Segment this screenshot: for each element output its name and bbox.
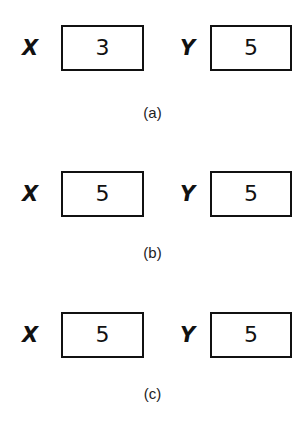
x-value-box: 5 [61,312,144,358]
variable-row: X 3 Y 5 [0,25,305,75]
panel-caption: (a) [0,104,305,121]
y-value-box: 5 [210,312,292,358]
y-label: Y [180,171,195,217]
x-label: X [22,312,38,358]
x-label: X [22,171,38,217]
x-label: X [22,25,38,71]
y-label: Y [180,25,195,71]
y-value-box: 5 [210,171,292,217]
variable-row: X 5 Y 5 [0,312,305,362]
y-label: Y [180,312,195,358]
x-value-box: 5 [61,171,144,217]
panel-caption: (c) [0,385,305,402]
x-value-box: 3 [61,25,144,71]
y-value-box: 5 [210,25,292,71]
panel-caption: (b) [0,244,305,261]
variable-row: X 5 Y 5 [0,171,305,221]
